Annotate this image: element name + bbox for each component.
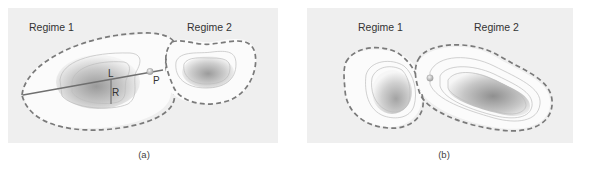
regime2-label: Regime 2 <box>187 21 232 33</box>
point-R-label: R <box>112 87 119 98</box>
point-P-marker <box>147 68 153 74</box>
regime1-label: Regime 1 <box>29 21 74 33</box>
regime2-label: Regime 2 <box>474 21 519 33</box>
panel-b-caption: (b) <box>438 149 450 160</box>
panel-b: Regime 1 Regime 2 (b) <box>307 8 573 160</box>
panel-a-caption: (a) <box>138 149 150 160</box>
regime1-label: Regime 1 <box>358 21 403 33</box>
point-P-label: P <box>153 75 160 86</box>
figure: Regime 1 Regime 2 L R P (a) Regime 1 Reg… <box>0 0 591 172</box>
point-L-label: L <box>108 68 114 79</box>
panel-a: Regime 1 Regime 2 L R P (a) <box>8 8 278 160</box>
state-marker <box>427 75 433 81</box>
